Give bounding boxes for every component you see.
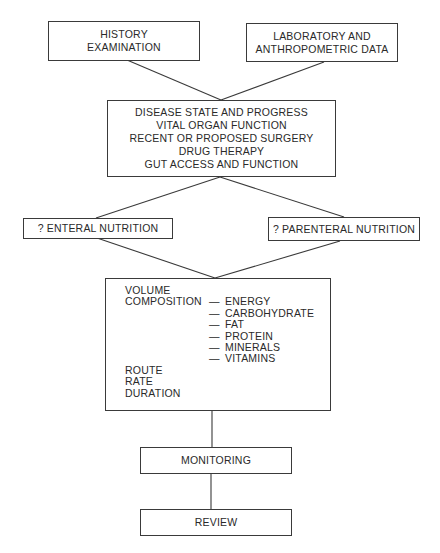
- prescription-label: DURATION: [125, 388, 181, 399]
- box-text-line: DISEASE STATE AND PROGRESS: [135, 106, 308, 119]
- box-text-line: REVIEW: [195, 516, 238, 529]
- box-text-line: EXAMINATION: [87, 41, 161, 54]
- box-text-line: LABORATORY AND: [273, 30, 371, 43]
- box-text-line: MONITORING: [181, 454, 251, 467]
- composition-item: VITAMINS: [225, 353, 275, 364]
- box-text-line: ANTHROPOMETRIC DATA: [256, 43, 389, 56]
- dash-glyph: —: [209, 319, 225, 330]
- flowchart-canvas: HISTORY EXAMINATION LABORATORY AND ANTHR…: [0, 0, 440, 553]
- edge-laboratory-assessment: [221, 62, 324, 100]
- box-text-line: GUT ACCESS AND FUNCTION: [145, 158, 299, 171]
- box-text-line: ? ENTERAL NUTRITION: [38, 222, 159, 235]
- box-text-line: HISTORY: [100, 28, 148, 41]
- edge-history-assessment: [127, 60, 221, 100]
- box-text-line: DRUG THERAPY: [179, 145, 265, 158]
- review-box: REVIEW: [140, 509, 292, 536]
- edge-enteral-prescription: [97, 238, 215, 278]
- clinical-assessment-box: DISEASE STATE AND PROGRESS VITAL ORGAN F…: [107, 100, 336, 177]
- prescription-label: COMPOSITION: [125, 296, 209, 307]
- laboratory-data-box: LABORATORY AND ANTHROPOMETRIC DATA: [246, 23, 398, 62]
- composition-item: FAT: [225, 319, 244, 330]
- edge-assessment-enteral: [96, 177, 220, 218]
- prescription-label: RATE: [125, 376, 153, 387]
- parenteral-nutrition-box: ? PARENTERAL NUTRITION: [268, 217, 420, 241]
- edge-assessment-parenteral: [220, 177, 344, 217]
- prescription-composition-row: — FAT: [125, 319, 244, 330]
- edge-parenteral-prescription: [215, 241, 340, 278]
- enteral-nutrition-box: ? ENTERAL NUTRITION: [23, 218, 173, 239]
- box-text-line: RECENT OR PROPOSED SURGERY: [130, 132, 314, 145]
- box-text-line: VITAL ORGAN FUNCTION: [156, 119, 287, 132]
- box-text-line: ? PARENTERAL NUTRITION: [273, 223, 415, 236]
- dash-glyph: —: [209, 353, 225, 364]
- prescription-duration: DURATION: [125, 388, 181, 399]
- nutrition-prescription-box: VOLUME COMPOSITION — ENERGY — CARBOHYDRA…: [105, 278, 331, 411]
- prescription-rate: RATE: [125, 376, 153, 387]
- monitoring-box: MONITORING: [140, 447, 292, 474]
- history-examination-box: HISTORY EXAMINATION: [48, 21, 200, 61]
